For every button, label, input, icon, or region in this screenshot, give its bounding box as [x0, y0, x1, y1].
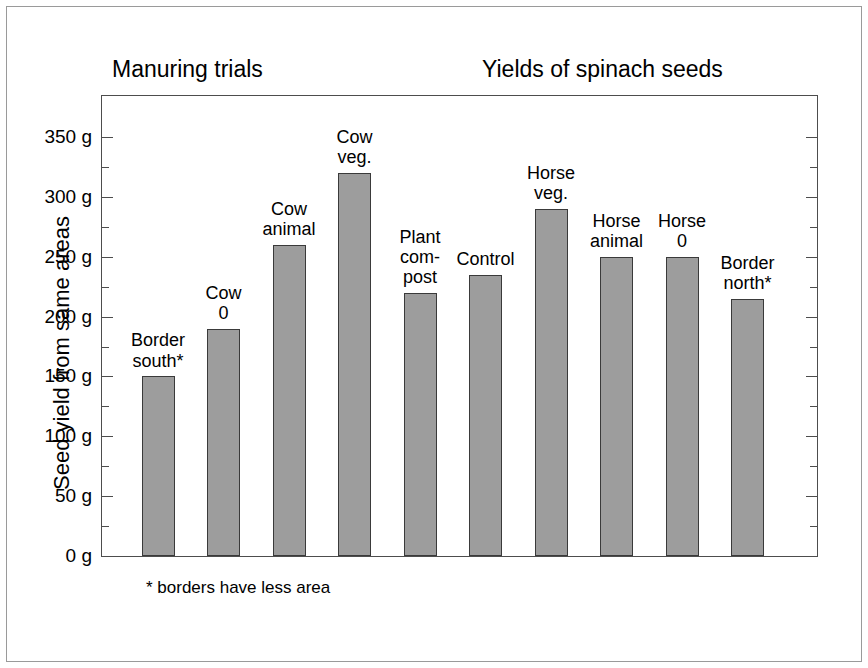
- y-axis-major-tick-right: [806, 496, 817, 497]
- chart-title-right: Yields of spinach seeds: [482, 58, 723, 81]
- bar-cow-0[interactable]: [207, 329, 240, 556]
- y-axis-minor-tick-right: [810, 466, 817, 467]
- bar-border-north[interactable]: [731, 299, 764, 556]
- y-axis-major-tick-right: [806, 257, 817, 258]
- y-axis-major-tick-right: [806, 137, 817, 138]
- y-axis-minor-tick-right: [810, 406, 817, 407]
- bar-border-south[interactable]: [142, 376, 175, 556]
- y-axis-major-tick-left: [102, 436, 113, 437]
- y-axis-tick-label: 300 g: [6, 186, 92, 208]
- bar-label-border-north: Border north*: [720, 253, 774, 293]
- bar-horse-animal[interactable]: [600, 257, 633, 556]
- y-axis-minor-tick-left: [102, 167, 109, 168]
- y-axis-major-tick-right: [806, 436, 817, 437]
- y-axis-major-tick-left: [102, 317, 113, 318]
- bar-control[interactable]: [469, 275, 502, 556]
- bar-label-border-south: Border south*: [131, 330, 185, 370]
- bar-label-cow-animal: Cow animal: [262, 199, 315, 239]
- y-axis-minor-tick-left: [102, 347, 109, 348]
- bar-cow-animal[interactable]: [273, 245, 306, 556]
- y-axis-tick-label: 0 g: [6, 545, 92, 567]
- y-axis-minor-tick-left: [102, 227, 109, 228]
- y-axis-minor-tick-left: [102, 406, 109, 407]
- bar-label-cow-0: Cow 0: [205, 283, 241, 323]
- plot-area: 0 g50 g100 g150 g200 g250 g300 g350 gBor…: [101, 95, 818, 557]
- bar-label-horse-animal: Horse animal: [590, 211, 643, 251]
- y-axis-major-tick-left: [102, 376, 113, 377]
- plot-surface: 0 g50 g100 g150 g200 g250 g300 g350 gBor…: [102, 96, 817, 556]
- y-axis-tick-label: 250 g: [6, 246, 92, 268]
- footnote: * borders have less area: [146, 578, 330, 598]
- y-axis-major-tick-right: [806, 197, 817, 198]
- y-axis-major-tick-right: [806, 556, 817, 557]
- bar-cow-veg[interactable]: [338, 173, 371, 556]
- y-axis-major-tick-left: [102, 137, 113, 138]
- y-axis-minor-tick-left: [102, 466, 109, 467]
- y-axis-minor-tick-right: [810, 167, 817, 168]
- chart-page: Manuring trials Yields of spinach seeds …: [0, 0, 868, 668]
- bar-label-plant-compost: Plant com- post: [399, 227, 440, 287]
- y-axis-major-tick-right: [806, 376, 817, 377]
- bar-horse-veg[interactable]: [535, 209, 568, 556]
- y-axis-minor-tick-right: [810, 526, 817, 527]
- y-axis-minor-tick-right: [810, 347, 817, 348]
- y-axis-minor-tick-left: [102, 526, 109, 527]
- bar-plant-compost[interactable]: [404, 293, 437, 556]
- bar-horse-0[interactable]: [666, 257, 699, 556]
- bar-label-control: Control: [456, 249, 514, 269]
- bar-label-horse-veg: Horse veg.: [527, 163, 575, 203]
- bar-label-cow-veg: Cow veg.: [336, 127, 372, 167]
- y-axis-tick-label: 50 g: [6, 485, 92, 507]
- y-axis-major-tick-left: [102, 257, 113, 258]
- y-axis-minor-tick-right: [810, 227, 817, 228]
- y-axis-minor-tick-right: [810, 287, 817, 288]
- chart-title-left: Manuring trials: [112, 58, 263, 81]
- y-axis-major-tick-left: [102, 496, 113, 497]
- y-axis-tick-label: 350 g: [6, 126, 92, 148]
- y-axis-major-tick-right: [806, 317, 817, 318]
- y-axis-tick-label: 150 g: [6, 365, 92, 387]
- y-axis-major-tick-left: [102, 556, 113, 557]
- y-axis-minor-tick-left: [102, 287, 109, 288]
- y-axis-major-tick-left: [102, 197, 113, 198]
- y-axis-tick-label: 200 g: [6, 306, 92, 328]
- bar-label-horse-0: Horse 0: [658, 211, 706, 251]
- y-axis-tick-label: 100 g: [6, 425, 92, 447]
